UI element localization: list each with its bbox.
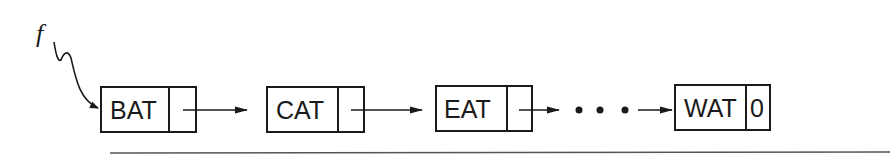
ellipsis	[576, 107, 629, 114]
node-data: CAT	[276, 96, 324, 124]
list-node-cat: CAT	[267, 87, 364, 132]
bottom-rule	[110, 152, 890, 153]
list-node-wat: WAT 0	[675, 85, 770, 130]
linked-list-diagram: f BAT CAT EAT WAT 0	[0, 0, 895, 157]
node-data: WAT	[684, 94, 737, 122]
pointer-arrow	[54, 42, 98, 108]
list-node-bat: BAT	[101, 87, 196, 132]
list-node-eat: EAT	[436, 86, 532, 131]
null-link: 0	[750, 94, 764, 122]
pointer-label-f: f	[36, 19, 47, 48]
node-data: EAT	[444, 95, 491, 123]
node-data: BAT	[110, 96, 157, 124]
